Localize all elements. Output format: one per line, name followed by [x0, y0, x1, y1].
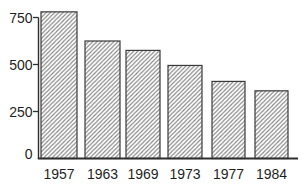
y-tick-label-750: 750 — [9, 10, 33, 26]
x-label-1973: 1973 — [169, 166, 200, 182]
bar-1977 — [212, 81, 245, 158]
bar-chart: 0250500750195719631969197319771984 — [0, 0, 301, 184]
bar-1957 — [41, 12, 77, 159]
x-label-1984: 1984 — [256, 166, 287, 182]
x-label-1963: 1963 — [87, 166, 118, 182]
y-tick-label-500: 500 — [9, 57, 33, 73]
x-label-1977: 1977 — [213, 166, 244, 182]
figure: 0250500750195719631969197319771984 — [0, 0, 301, 184]
x-label-1969: 1969 — [127, 166, 158, 182]
bar-1963 — [85, 41, 120, 159]
bar-1973 — [168, 65, 202, 158]
bar-1984 — [255, 91, 288, 159]
y-tick-label-0: 0 — [25, 146, 33, 162]
bar-1969 — [126, 50, 160, 158]
y-tick-label-250: 250 — [9, 104, 33, 120]
x-label-1957: 1957 — [43, 166, 74, 182]
